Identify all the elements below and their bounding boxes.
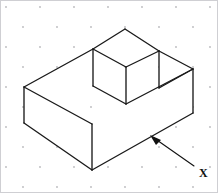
- grid-dot: [5, 46, 7, 48]
- isometric-figure-panel: X: [0, 0, 218, 193]
- grid-dot: [209, 46, 211, 48]
- grid-dot: [39, 46, 41, 48]
- grid-dot: [158, 186, 160, 188]
- grid-dot: [56, 66, 58, 68]
- grid-dot: [107, 6, 109, 8]
- grid-dot: [39, 6, 41, 8]
- grid-dot: [209, 86, 211, 88]
- grid-dot: [22, 26, 24, 28]
- grid-dot: [39, 166, 41, 168]
- grid-dot: [175, 46, 177, 48]
- grid-dot: [124, 26, 126, 28]
- grid-dot: [192, 66, 194, 68]
- grid-dot: [5, 6, 7, 8]
- grid-dot: [209, 126, 211, 128]
- grid-dot: [175, 126, 177, 128]
- grid-dot: [5, 126, 7, 128]
- grid-dot: [175, 166, 177, 168]
- isometric-drawing: X: [0, 0, 218, 193]
- grid-dot: [107, 166, 109, 168]
- grid-dot: [90, 186, 92, 188]
- callout-label-x: X: [199, 166, 208, 180]
- grid-dot: [192, 26, 194, 28]
- grid-dot: [73, 166, 75, 168]
- grid-dot: [158, 26, 160, 28]
- grid-dot: [90, 106, 92, 108]
- grid-dot: [158, 146, 160, 148]
- grid-dot: [141, 6, 143, 8]
- grid-dot: [22, 66, 24, 68]
- grid-dot: [192, 146, 194, 148]
- grid-dot: [124, 186, 126, 188]
- grid-dot: [5, 166, 7, 168]
- grid-dot: [209, 6, 211, 8]
- grid-dot: [73, 46, 75, 48]
- grid-dot: [141, 166, 143, 168]
- grid-dot: [5, 86, 7, 88]
- grid-dot: [175, 6, 177, 8]
- grid-dot: [90, 26, 92, 28]
- grid-dot: [209, 166, 211, 168]
- grid-dot: [56, 26, 58, 28]
- grid-dot: [56, 186, 58, 188]
- grid-dot: [22, 186, 24, 188]
- grid-dot: [192, 186, 194, 188]
- grid-dot: [22, 146, 24, 148]
- grid-dot: [73, 6, 75, 8]
